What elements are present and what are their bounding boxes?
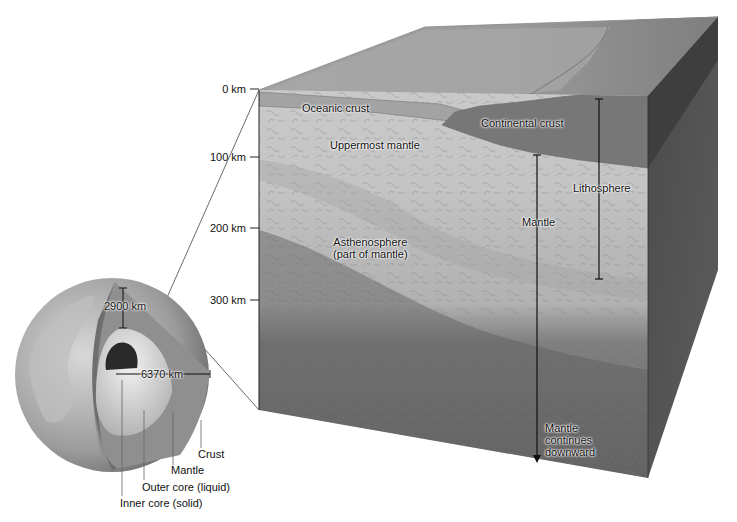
label-6370-km: 6370 km (141, 368, 183, 380)
label-mantle-continues: Mantle continues downward (545, 422, 595, 458)
label-lithosphere: Lithosphere (573, 182, 631, 194)
depth-label-300: 300 km (202, 294, 246, 306)
label-oceanic-crust: Oceanic crust (302, 102, 369, 114)
depth-label-0: 0 km (202, 83, 246, 95)
label-globe-mantle: Mantle (171, 464, 204, 476)
label-mantle: Mantle (522, 216, 555, 228)
label-mantle-continues-line1: Mantle (545, 422, 595, 434)
label-crust: Crust (198, 448, 224, 460)
label-continental-crust: Continental crust (481, 117, 564, 129)
depth-label-100: 100 km (202, 151, 246, 163)
label-asthenosphere-line2: (part of mantle) (333, 248, 408, 260)
label-asthenosphere: Asthenosphere (part of mantle) (333, 236, 408, 260)
depth-scale (250, 89, 259, 410)
label-inner-core: Inner core (solid) (120, 497, 203, 509)
label-mantle-continues-line2: continues (545, 434, 595, 446)
label-2900-km: 2900 km (104, 300, 146, 312)
label-outer-core: Outer core (liquid) (142, 481, 230, 493)
label-mantle-continues-line3: downward (545, 446, 595, 458)
earth-structure-diagram (0, 0, 737, 522)
label-asthenosphere-line1: Asthenosphere (333, 236, 408, 248)
depth-label-200: 200 km (202, 222, 246, 234)
label-uppermost-mantle: Uppermost mantle (330, 139, 420, 151)
